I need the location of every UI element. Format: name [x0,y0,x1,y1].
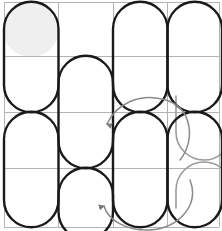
pattern-figure [0,0,222,231]
puzzle-canvas [0,0,222,231]
